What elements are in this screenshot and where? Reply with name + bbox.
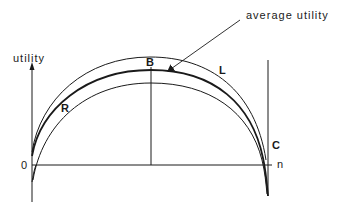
x-axis-label: n xyxy=(277,159,283,170)
curve-average-utility xyxy=(32,70,268,196)
y-axis-label: utility xyxy=(13,53,45,64)
utility-diagram xyxy=(0,0,346,210)
curve-r-label: R xyxy=(61,103,69,114)
point-b-label: B xyxy=(146,57,154,68)
point-c-label: C xyxy=(272,140,280,151)
annotation-label: average utility xyxy=(246,10,329,21)
curve-r-tail xyxy=(32,165,36,182)
origin-label: 0 xyxy=(21,160,27,171)
annotation-leader-arrow xyxy=(168,20,240,71)
curve-l-label: L xyxy=(219,65,226,76)
